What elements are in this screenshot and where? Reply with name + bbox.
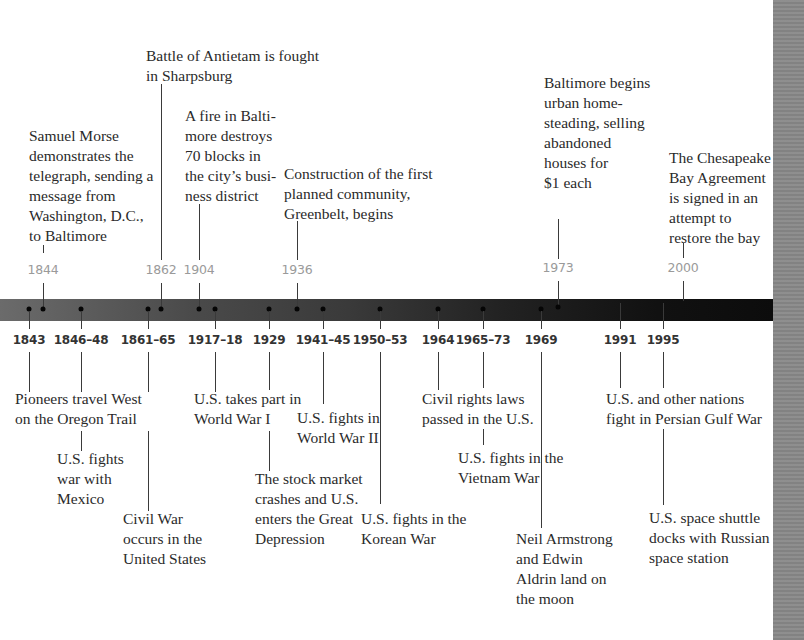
connector-line	[483, 352, 484, 388]
connector-line	[148, 352, 149, 392]
year-label: 1973	[542, 260, 573, 275]
connector-line	[81, 431, 82, 451]
connector-line	[663, 429, 664, 505]
timeline-dot	[556, 305, 561, 310]
year-label: 1941–45	[296, 333, 351, 347]
event-text: Neil Armstrong and Edwin Aldrin land on …	[516, 529, 613, 609]
event-text: The Chesapeake Bay Agreement is signed i…	[669, 148, 771, 248]
event-text: The stock market crashes and U.S. enters…	[255, 469, 363, 549]
event-text: Baltimore begins urban home- steading, s…	[544, 73, 650, 193]
year-label: 1844	[27, 262, 58, 277]
connector-line	[215, 352, 216, 392]
connector-line	[663, 303, 664, 329]
event-text: U.S. and other nations fight in Persian …	[606, 389, 762, 429]
event-text: A fire in Balti- more destroys 70 blocks…	[185, 106, 276, 206]
connector-line	[199, 204, 200, 260]
year-label: 1995	[647, 333, 680, 347]
year-label: 1965–73	[456, 333, 511, 347]
event-text: U.S. fights in the Korean War	[361, 509, 467, 549]
connector-line	[541, 352, 542, 528]
timeline-bar	[0, 299, 773, 321]
event-text: U.S. fights war with Mexico	[57, 449, 124, 509]
year-label: 1917–18	[188, 333, 243, 347]
year-label: 1969	[525, 333, 558, 347]
connector-line	[323, 352, 324, 404]
connector-line	[297, 283, 298, 308]
event-text: Samuel Morse demonstrates the telegraph,…	[29, 126, 153, 246]
connector-line	[161, 84, 162, 260]
connector-line	[438, 311, 439, 329]
timeline-dot	[197, 307, 202, 312]
connector-line	[380, 352, 381, 504]
connector-line	[620, 303, 621, 329]
year-label: 1846–48	[54, 333, 109, 347]
timeline-dot	[41, 307, 46, 312]
connector-line	[483, 429, 484, 445]
connector-line	[558, 219, 559, 259]
year-label: 1862	[145, 262, 176, 277]
year-label: 1861–65	[121, 333, 176, 347]
event-text: U.S. space shuttle docks with Russian sp…	[649, 508, 770, 568]
year-label: 1904	[183, 262, 214, 277]
connector-line	[269, 311, 270, 329]
connector-line	[683, 281, 684, 301]
event-text: U.S. fights in World War II	[297, 408, 380, 448]
connector-line	[683, 243, 684, 258]
connector-line	[380, 311, 381, 329]
connector-line	[43, 245, 44, 253]
year-label: 1929	[253, 333, 286, 347]
connector-line	[483, 311, 484, 329]
connector-line	[215, 311, 216, 329]
connector-line	[81, 311, 82, 329]
connector-line	[541, 311, 542, 329]
connector-line	[29, 311, 30, 329]
event-text: U.S. fights in the Vietnam War	[458, 448, 564, 488]
connector-line	[620, 352, 621, 388]
connector-line	[81, 352, 82, 392]
event-text: U.S. takes part in World War I	[194, 389, 301, 429]
event-text: Civil rights laws passed in the U.S.	[422, 389, 534, 429]
year-label: 1936	[281, 262, 312, 277]
connector-line	[438, 352, 439, 390]
year-label: 2000	[667, 260, 698, 275]
connector-line	[161, 283, 162, 308]
page-edge-strip	[773, 0, 804, 640]
year-label: 1991	[604, 333, 637, 347]
event-text: Civil War occurs in the United States	[123, 509, 206, 569]
year-label: 1950–53	[353, 333, 408, 347]
connector-line	[297, 221, 298, 260]
timeline-dot	[295, 307, 300, 312]
event-text: Pioneers travel West on the Oregon Trail	[15, 389, 142, 429]
connector-line	[269, 431, 270, 471]
connector-line	[663, 352, 664, 388]
connector-line	[148, 431, 149, 511]
timeline-dot	[159, 307, 164, 312]
connector-line	[323, 311, 324, 329]
event-text: Construction of the first planned commun…	[284, 164, 433, 224]
connector-line	[199, 283, 200, 308]
event-text: Battle of Antietam is fought in Sharpsbu…	[146, 46, 319, 86]
connector-line	[148, 311, 149, 329]
connector-line	[29, 352, 30, 392]
year-label: 1964	[422, 333, 455, 347]
connector-line	[43, 283, 44, 308]
year-label: 1843	[13, 333, 46, 347]
connector-line	[269, 352, 270, 390]
